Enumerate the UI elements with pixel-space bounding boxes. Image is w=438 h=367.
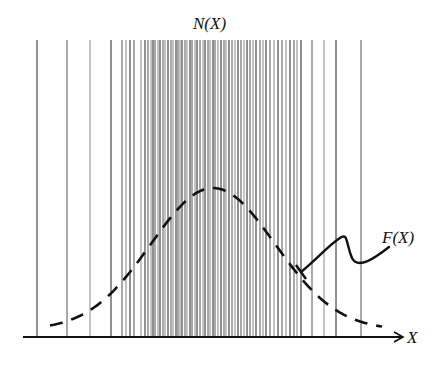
diagram-canvas [0,0,438,367]
f-of-x-label: F(X) [382,228,414,248]
vertical-lines-n-of-x [37,40,361,337]
distribution-diagram: N(X) F(X) X [0,0,438,367]
n-of-x-label: N(X) [193,14,226,34]
dashed-gaussian-curve-f-of-x [50,188,382,327]
x-axis-label: X [407,328,417,348]
f-of-x-leader-arrow [301,236,389,272]
